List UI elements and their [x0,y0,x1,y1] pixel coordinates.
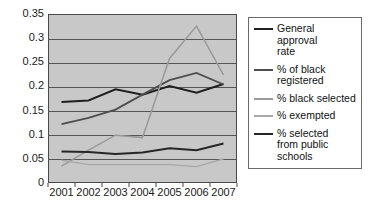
x-axis-tick-mark [102,183,103,187]
y-axis-tick-label: 0 [0,177,44,188]
x-axis-tick-label: 2006 [184,186,208,199]
legend-item-label: % of black registered [277,64,325,87]
y-axis-tick-label: 0.15 [0,105,44,116]
legend-item-label: % selected from public schools [277,128,328,163]
line-chart: 00.050.10.150.20.250.30.35 2001200220032… [0,0,368,213]
legend-line-swatch-icon [254,64,273,75]
legend-item[interactable]: General approval rate [254,23,357,58]
legend-line-swatch-icon [254,93,273,104]
series-container [48,14,237,183]
y-axis-tick-label: 0.05 [0,153,44,164]
x-axis-tick-mark [75,183,76,187]
legend-line-swatch-icon [254,23,273,34]
series-line [62,143,224,154]
y-axis-tick-label: 0.35 [0,8,44,19]
y-axis-tick-label: 0.1 [0,129,44,140]
y-axis-tick-label: 0.2 [0,80,44,91]
y-axis-tick-label: 0.3 [0,32,44,43]
series-line [62,84,224,102]
x-axis-tick-mark [156,183,157,187]
x-axis-tick-label: 2001 [49,186,73,199]
legend-line-swatch-icon [254,110,273,121]
legend-item-label: % exempted [277,110,335,122]
legend-item-label: % black selected [277,93,356,105]
x-axis-tick-mark [237,183,238,187]
legend-item[interactable]: % selected from public schools [254,128,357,163]
x-axis-tick-label: 2002 [76,186,100,199]
x-axis: 2001200220032004200520062007 [48,186,237,206]
legend-item-label: General approval rate [277,23,357,58]
legend-line-swatch-icon [254,128,273,139]
series-line [62,159,224,167]
y-axis: 00.050.10.150.20.250.30.35 [0,0,44,213]
legend-item[interactable]: % of black registered [254,64,357,87]
series-line [62,73,224,124]
x-axis-tick-mark [48,183,49,187]
x-axis-tick-label: 2003 [103,186,127,199]
legend-item[interactable]: % black selected [254,93,357,105]
x-axis-tick-label: 2004 [130,186,154,199]
x-axis-tick-label: 2005 [157,186,181,199]
x-axis-tick-label: 2007 [211,186,235,199]
x-axis-tick-mark [129,183,130,187]
legend: General approval rate% of black register… [248,17,362,169]
y-axis-tick-label: 0.25 [0,56,44,67]
series-line [62,26,224,166]
x-axis-tick-mark [210,183,211,187]
x-axis-tick-mark [183,183,184,187]
legend-item[interactable]: % exempted [254,110,357,122]
